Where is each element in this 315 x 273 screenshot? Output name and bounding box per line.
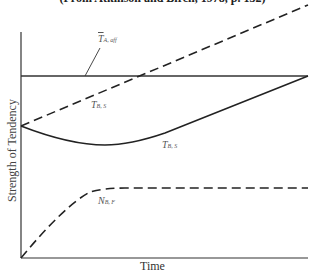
series-nbf: [21, 188, 308, 258]
x-axis-label: Time: [140, 259, 165, 273]
series-tbs-dashed: [21, 5, 308, 126]
label-tbs-solid: TB, S: [162, 139, 177, 150]
t-aff-leader: [85, 48, 100, 76]
chart-plot: [0, 0, 315, 273]
label-nbf: NB, F: [98, 195, 115, 206]
series-tbs-solid: [21, 76, 308, 145]
label-tbs-dashed: TB, S: [91, 99, 106, 110]
y-axis-label: Strength of Tendency: [5, 81, 20, 221]
label-t-aff: TA, aff: [98, 33, 117, 44]
